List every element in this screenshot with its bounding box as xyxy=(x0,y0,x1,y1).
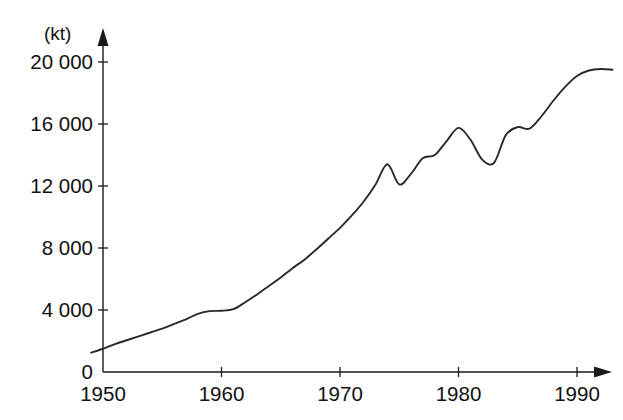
y-axis-unit-label: (kt) xyxy=(44,24,71,43)
axes-group xyxy=(98,28,613,378)
x-axis-tick-label: 1980 xyxy=(419,384,499,405)
data-series-line xyxy=(91,69,612,353)
y-axis-tick-label: 8 000 xyxy=(5,238,93,259)
x-axis-tick-label: 1970 xyxy=(300,384,380,405)
y-axis-tick-label: 16 000 xyxy=(5,114,93,135)
x-axis-tick-label: 1950 xyxy=(63,384,143,405)
line-chart-plot xyxy=(0,0,623,420)
chart-container: (kt) 04 0008 00012 00016 00020 000195019… xyxy=(0,0,623,420)
x-axis-tick-label: 1960 xyxy=(182,384,262,405)
y-axis-tick-label: 20 000 xyxy=(5,52,93,73)
y-axis-tick-label: 12 000 xyxy=(5,176,93,197)
y-axis-tick-label: 4 000 xyxy=(5,300,93,321)
x-axis-arrow-icon xyxy=(594,367,612,378)
x-axis-tick-label: 1990 xyxy=(537,384,617,405)
y-axis-arrow-icon xyxy=(98,28,109,46)
y-axis-tick-label: 0 xyxy=(5,362,93,383)
